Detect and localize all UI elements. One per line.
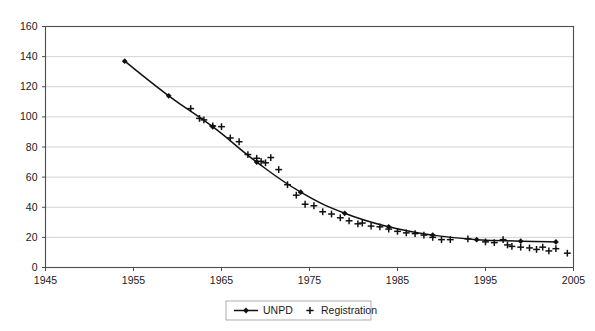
x-tick-label-1965: 1965 bbox=[210, 274, 234, 286]
registration-point-20 bbox=[346, 217, 353, 224]
registration-point-21 bbox=[355, 220, 362, 227]
y-axis-tick-labels: 020406080100120140160 bbox=[20, 20, 46, 273]
y-tick-label-160: 160 bbox=[20, 20, 38, 32]
registration-point-11 bbox=[267, 154, 274, 161]
registration-point-43 bbox=[545, 248, 552, 255]
y-tick-label-100: 100 bbox=[20, 110, 38, 122]
x-tick-label-1985: 1985 bbox=[386, 274, 410, 286]
chart-container: 020406080100120140160 194519551965197519… bbox=[0, 0, 595, 331]
legend-label-registration: Registration bbox=[321, 304, 377, 316]
registration-point-4 bbox=[218, 123, 225, 130]
registration-point-15 bbox=[302, 201, 309, 208]
registration-point-44 bbox=[553, 245, 560, 252]
unpd-point-9 bbox=[518, 238, 524, 244]
registration-point-12 bbox=[275, 166, 282, 173]
registration-point-42 bbox=[539, 244, 546, 251]
y-tick-label-40: 40 bbox=[26, 201, 38, 213]
registration-point-39 bbox=[517, 244, 524, 251]
x-tick-label-2005: 2005 bbox=[562, 274, 586, 286]
gridlines bbox=[46, 27, 574, 238]
unpd-point-10 bbox=[553, 239, 559, 245]
registration-point-45 bbox=[564, 250, 571, 257]
line-scatter-chart: 020406080100120140160 194519551965197519… bbox=[0, 0, 595, 331]
registration-point-41 bbox=[533, 246, 540, 253]
unpd-point-5 bbox=[342, 210, 348, 216]
registration-point-23 bbox=[368, 223, 375, 230]
registration-point-37 bbox=[504, 242, 511, 249]
x-tick-label-1955: 1955 bbox=[122, 274, 146, 286]
series-registration bbox=[187, 105, 570, 256]
registration-point-17 bbox=[319, 208, 326, 215]
y-tick-label-120: 120 bbox=[20, 80, 38, 92]
y-tick-label-140: 140 bbox=[20, 50, 38, 62]
legend-label-unpd: UNPD bbox=[263, 304, 293, 316]
registration-point-19 bbox=[337, 214, 344, 221]
chart-legend: UNPDRegistration bbox=[226, 301, 377, 320]
x-tick-label-1995: 1995 bbox=[474, 274, 498, 286]
registration-point-6 bbox=[236, 138, 243, 145]
y-tick-label-0: 0 bbox=[32, 261, 38, 273]
x-axis-tick-labels: 1945195519651975198519952005 bbox=[34, 268, 586, 286]
registration-point-18 bbox=[328, 211, 335, 218]
y-tick-label-80: 80 bbox=[26, 141, 38, 153]
x-tick-label-1945: 1945 bbox=[34, 274, 58, 286]
y-tick-label-60: 60 bbox=[26, 171, 38, 183]
registration-point-10 bbox=[262, 159, 269, 166]
y-tick-label-20: 20 bbox=[26, 231, 38, 243]
registration-point-16 bbox=[311, 202, 318, 209]
registration-point-38 bbox=[509, 243, 516, 250]
x-tick-label-1975: 1975 bbox=[298, 274, 322, 286]
registration-point-40 bbox=[526, 245, 533, 252]
